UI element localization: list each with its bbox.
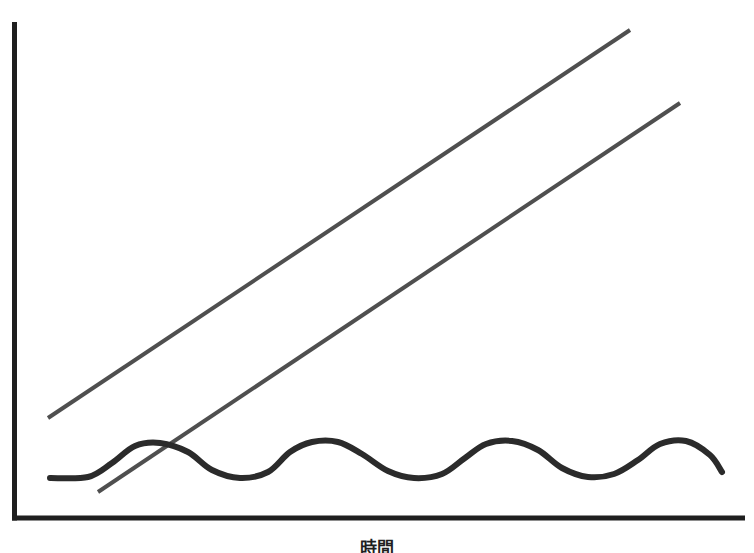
chart-container: 時間 xyxy=(0,0,754,553)
chart-canvas xyxy=(0,0,754,553)
x-axis-label: 時間 xyxy=(0,538,754,553)
oscillating-wave-line xyxy=(50,440,722,478)
lower-trend-line xyxy=(98,103,680,492)
upper-trend-line xyxy=(48,30,630,418)
